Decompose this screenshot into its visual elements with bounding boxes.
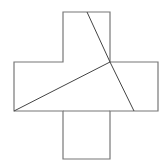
cut-line-3	[14, 62, 110, 111]
cut-line-2	[110, 62, 134, 111]
cross-dissection-diagram	[0, 0, 167, 168]
cross-outline	[14, 12, 158, 159]
cut-line-1	[87, 12, 110, 62]
